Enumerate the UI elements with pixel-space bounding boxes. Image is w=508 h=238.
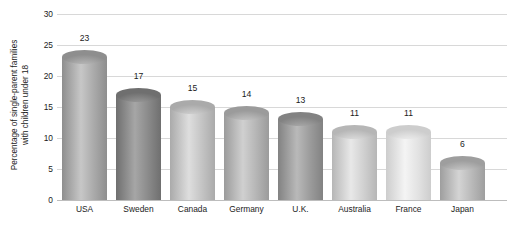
bar-japan: 6: [440, 163, 485, 200]
bar-body: [224, 113, 269, 200]
bar-value-label: 23: [80, 33, 90, 43]
bar-body: [278, 119, 323, 200]
bar-body: [62, 57, 107, 200]
y-axis-title: Percentage of single-parent families wit…: [0, 0, 40, 210]
gridline-25: [57, 45, 507, 46]
y-tick-label-30: 30: [40, 9, 53, 19]
bar-body: [116, 95, 161, 200]
bar-body: [386, 132, 431, 200]
x-axis-label-japan: Japan: [428, 204, 498, 214]
bar-value-label: 15: [188, 83, 198, 93]
bar-u-k: 13: [278, 119, 323, 200]
bar-value-label: 13: [296, 95, 306, 105]
bar-cap: [170, 100, 215, 114]
bar-france: 11: [386, 132, 431, 200]
bar-germany: 14: [224, 113, 269, 200]
y-tick-label-25: 25: [40, 40, 53, 50]
bar-body: [170, 107, 215, 200]
bar-sweden: 17: [116, 95, 161, 200]
y-tick-label-10: 10: [40, 133, 53, 143]
y-axis-title-line-2: with children under 18: [20, 40, 31, 171]
bar-value-label: 11: [350, 108, 359, 118]
bar-usa: 23: [62, 57, 107, 200]
bar-australia: 11: [332, 132, 377, 200]
bar-canada: 15: [170, 107, 215, 200]
gridline-0: [57, 200, 507, 201]
y-tick-label-15: 15: [40, 102, 53, 112]
bar-value-label: 6: [460, 139, 465, 149]
bar-cap: [440, 156, 485, 170]
y-tick-label-5: 5: [40, 164, 53, 174]
y-axis-title-line-1: Percentage of single-parent families: [9, 40, 20, 171]
bar-value-label: 14: [242, 89, 252, 99]
bar-body: [332, 132, 377, 200]
gridline-20: [57, 76, 507, 77]
bar-cap: [386, 125, 431, 139]
bar-cap: [332, 125, 377, 139]
plot-area: 051015202530 231715141311116 USASwedenCa…: [40, 0, 508, 238]
bar-value-label: 11: [404, 108, 413, 118]
bar-cap: [116, 88, 161, 102]
gridline-30: [57, 14, 507, 15]
bar-chart: Percentage of single-parent families wit…: [0, 0, 508, 238]
bar-value-label: 17: [134, 71, 144, 81]
y-tick-label-20: 20: [40, 71, 53, 81]
